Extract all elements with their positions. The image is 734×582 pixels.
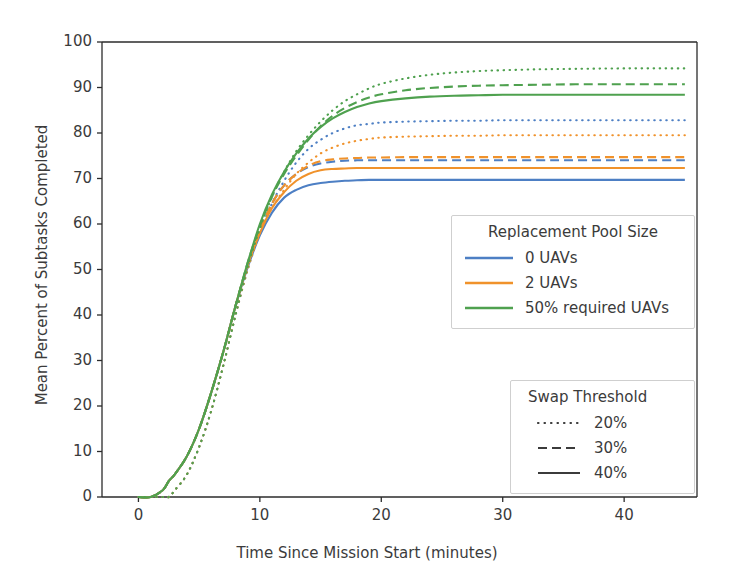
legend-item-swap-0[interactable]: 20% (522, 410, 683, 435)
y-tick-label: 70 (20, 169, 92, 187)
y-tick-label: 100 (20, 32, 92, 50)
chart-figure: Mean Percent of Subtasks Completed Time … (0, 0, 734, 582)
legend-item-pool-1[interactable]: 2 UAVs (463, 270, 683, 295)
x-tick-label: 20 (341, 506, 421, 524)
legend-label-swap-0: 20% (594, 414, 627, 432)
y-tick-label: 0 (20, 487, 92, 505)
legend-label-swap-1: 30% (594, 439, 627, 457)
legend-label-pool-0: 0 UAVs (525, 249, 578, 267)
y-tick-label: 80 (20, 123, 92, 141)
legend-replacement-pool-size: Replacement Pool Size 0 UAVs 2 UAVs 50% … (451, 215, 695, 329)
legend-item-swap-2[interactable]: 40% (522, 460, 683, 485)
y-tick-label: 60 (20, 214, 92, 232)
legend-label-pool-2: 50% required UAVs (525, 299, 669, 317)
legend-title-swap: Swap Threshold (522, 388, 683, 406)
y-tick-label: 90 (20, 78, 92, 96)
legend-item-swap-1[interactable]: 30% (522, 435, 683, 460)
legend-item-pool-0[interactable]: 0 UAVs (463, 245, 683, 270)
y-tick-label: 50 (20, 260, 92, 278)
x-tick-label: 30 (463, 506, 543, 524)
x-tick-label: 40 (584, 506, 664, 524)
y-tick-label: 20 (20, 396, 92, 414)
x-tick-label: 10 (220, 506, 300, 524)
legend-swatch-solid-line (536, 466, 582, 480)
y-tick-label: 40 (20, 305, 92, 323)
legend-swatch-line (463, 276, 515, 290)
legend-title-pool: Replacement Pool Size (463, 223, 683, 241)
x-axis-label: Time Since Mission Start (minutes) (0, 544, 734, 562)
x-tick-label: 0 (98, 506, 178, 524)
legend-swatch-dashed-line (536, 441, 582, 455)
legend-swatch-dotted-line (536, 416, 582, 430)
legend-swap-threshold: Swap Threshold 20% 30% 40% (510, 380, 695, 494)
legend-swatch-line (463, 251, 515, 265)
y-tick-label: 30 (20, 351, 92, 369)
legend-item-pool-2[interactable]: 50% required UAVs (463, 295, 683, 320)
legend-label-swap-2: 40% (594, 464, 627, 482)
legend-label-pool-1: 2 UAVs (525, 274, 578, 292)
legend-swatch-line (463, 301, 515, 315)
y-tick-label: 10 (20, 442, 92, 460)
